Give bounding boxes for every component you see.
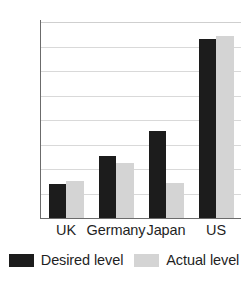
bar-japan-actual [166, 183, 184, 218]
legend-swatch-desired [9, 254, 34, 267]
legend-swatch-actual [134, 254, 159, 267]
x-axis-tick-label: UK [56, 222, 76, 238]
chart-legend: Desired level Actual level [0, 252, 248, 268]
legend-item-actual: Actual level [134, 252, 239, 268]
bar-us-actual [216, 36, 234, 218]
gridline [41, 22, 241, 23]
x-axis-tick-label: Japan [146, 222, 185, 238]
bar-uk-actual [66, 181, 84, 218]
bar-chart: 050100150200250300350400 UKGermanyJapanU… [0, 0, 248, 281]
bar-germany-desired [99, 156, 117, 218]
x-axis-line [40, 218, 241, 219]
legend-label-actual: Actual level [166, 252, 239, 268]
x-axis-tick-label: US [206, 222, 226, 238]
bar-us-desired [199, 39, 217, 218]
legend-label-desired: Desired level [41, 252, 124, 268]
legend-item-desired: Desired level [9, 252, 124, 268]
x-axis-tick-label: Germany [87, 222, 146, 238]
bar-japan-desired [149, 131, 167, 218]
y-axis-line [40, 20, 41, 219]
bar-germany-actual [116, 163, 134, 218]
bar-uk-desired [49, 184, 67, 218]
plot-area [41, 22, 241, 218]
